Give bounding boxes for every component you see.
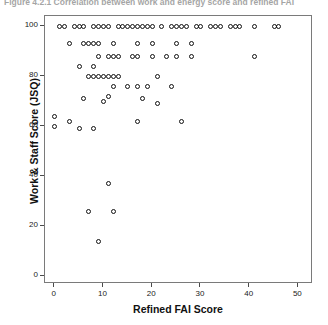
data-point: [96, 54, 101, 59]
data-point: [189, 54, 194, 59]
data-point: [198, 24, 203, 29]
data-point: [140, 96, 145, 101]
data-point: [52, 114, 57, 119]
data-point: [252, 24, 257, 29]
y-axis-tick-label: 100: [25, 20, 40, 30]
x-axis-tick: 20: [136, 283, 166, 299]
data-point: [116, 74, 121, 79]
y-axis-title: Work & Staff Score (JSQ): [28, 46, 40, 236]
data-point: [164, 54, 169, 59]
y-axis-tick: 100: [25, 20, 44, 30]
data-point: [179, 119, 184, 124]
data-point: [135, 84, 140, 89]
data-point: [228, 24, 233, 29]
data-point: [106, 181, 111, 186]
data-point: [86, 209, 91, 214]
x-axis-tick-label: 50: [282, 288, 312, 299]
x-axis-tick: 40: [234, 283, 264, 299]
data-point: [155, 101, 160, 106]
data-point: [116, 54, 121, 59]
y-axis-tick: 0: [34, 270, 44, 280]
data-point: [150, 24, 155, 29]
x-axis-tick-mark: [102, 283, 103, 287]
data-point: [91, 126, 96, 131]
x-axis-tick-mark: [53, 283, 54, 287]
plot-area: [44, 15, 312, 283]
data-point: [184, 24, 189, 29]
data-point: [101, 99, 106, 104]
x-axis-tick: 0: [39, 283, 69, 299]
data-point: [252, 54, 257, 59]
x-axis-tick-label: 10: [87, 288, 117, 299]
scatter-plot-figure: Figure 4.2.1 Correlation between work an…: [0, 0, 328, 325]
x-axis-tick-label: 40: [234, 288, 264, 299]
x-axis-title: Refined FAI Score: [44, 303, 312, 315]
x-axis-tick: 30: [185, 283, 215, 299]
data-point: [174, 41, 179, 46]
data-point: [189, 41, 194, 46]
data-point: [150, 41, 155, 46]
data-point: [81, 24, 86, 29]
data-point: [96, 239, 101, 244]
data-point: [62, 24, 67, 29]
data-point: [111, 54, 116, 59]
x-axis-tick-label: 30: [185, 288, 215, 299]
x-axis-tick-label: 20: [136, 288, 166, 299]
x-axis-tick-mark: [248, 283, 249, 287]
data-point: [91, 64, 96, 69]
data-point: [159, 24, 164, 29]
data-points-layer: [45, 16, 311, 282]
data-point: [111, 74, 116, 79]
data-point: [174, 54, 179, 59]
data-point: [77, 64, 82, 69]
data-point: [106, 94, 111, 99]
data-point: [111, 84, 116, 89]
data-point: [237, 24, 242, 29]
data-point: [135, 119, 140, 124]
data-point: [276, 24, 281, 29]
data-point: [72, 24, 77, 29]
x-axis-tick: 10: [87, 283, 117, 299]
x-axis: 01020304050: [44, 283, 312, 299]
data-point: [218, 24, 223, 29]
x-axis-tick-mark: [297, 283, 298, 287]
x-axis-tick-label: 0: [39, 288, 69, 299]
data-point: [67, 41, 72, 46]
x-axis-tick-mark: [151, 283, 152, 287]
x-axis-tick-mark: [199, 283, 200, 287]
data-point: [81, 96, 86, 101]
data-point: [96, 41, 101, 46]
data-point: [145, 84, 150, 89]
data-point: [111, 209, 116, 214]
figure-caption: Figure 4.2.1 Correlation between work an…: [4, 0, 326, 8]
data-point: [67, 119, 72, 124]
data-point: [155, 74, 160, 79]
x-axis-tick: 50: [282, 283, 312, 299]
data-point: [150, 54, 155, 59]
data-point: [135, 41, 140, 46]
data-point: [135, 54, 140, 59]
data-point: [52, 124, 57, 129]
data-point: [77, 126, 82, 131]
data-point: [125, 84, 130, 89]
data-point: [169, 84, 174, 89]
data-point: [111, 41, 116, 46]
data-point: [106, 24, 111, 29]
